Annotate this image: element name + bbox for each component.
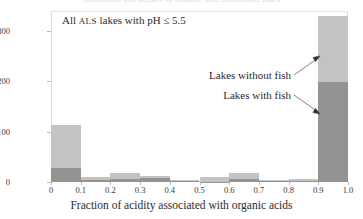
y-axis-tick-label: 200 bbox=[0, 76, 10, 86]
x-axis-tick-mark bbox=[289, 182, 290, 185]
bar-segment-with-fish bbox=[51, 168, 81, 182]
x-axis-tick-label: 0.3 bbox=[135, 185, 146, 195]
x-axis-tick-label: 0.6 bbox=[224, 185, 235, 195]
x-axis-tick-label: 0 bbox=[49, 185, 53, 195]
x-axis-tick-label: 0.2 bbox=[105, 185, 116, 195]
x-axis-tick-mark bbox=[170, 182, 171, 185]
histogram-bin bbox=[259, 180, 289, 183]
bar-segment-without-fish bbox=[81, 177, 111, 180]
histogram-bin bbox=[318, 16, 348, 182]
bar-segment-with-fish bbox=[170, 181, 200, 182]
x-axis-tick-mark bbox=[51, 182, 52, 185]
y-axis-tick-mark bbox=[47, 81, 51, 82]
x-axis-tick-mark bbox=[110, 182, 111, 185]
x-axis-tick-mark bbox=[318, 182, 319, 185]
bar-segment-without-fish bbox=[140, 176, 170, 178]
histogram-bin bbox=[140, 176, 170, 182]
y-axis-tick-mark bbox=[47, 132, 51, 133]
x-axis-tick-mark bbox=[81, 182, 82, 185]
x-axis-tick-label: 1.0 bbox=[343, 185, 354, 195]
bar-segment-with-fish bbox=[110, 179, 140, 182]
x-axis-tick-label: 0.8 bbox=[283, 185, 294, 195]
x-axis-tick-mark bbox=[229, 182, 230, 185]
annotation-prefix: All bbox=[62, 14, 79, 26]
figure-container: Aluminum and acidity in organic-acid dom… bbox=[0, 0, 363, 219]
y-axis-tick-label: 100 bbox=[0, 127, 10, 137]
histogram-bin bbox=[81, 177, 111, 182]
histogram-bin bbox=[289, 178, 319, 182]
y-axis-tick-label: 300 bbox=[0, 26, 10, 36]
cut-off-figure-title: Aluminum and acidity in organic-acid dom… bbox=[0, 0, 363, 2]
bar-segment-without-fish bbox=[318, 16, 348, 82]
x-axis-tick-label: 0.9 bbox=[313, 185, 324, 195]
callout-lakes-without-fish: Lakes without fish bbox=[178, 69, 291, 81]
y-axis-tick-label: 0 bbox=[6, 177, 10, 187]
histogram-bin bbox=[229, 173, 259, 182]
bar-segment-with-fish bbox=[289, 181, 319, 182]
x-axis-tick-mark bbox=[140, 182, 141, 185]
bar-segment-with-fish bbox=[140, 178, 170, 182]
bar-segment-without-fish bbox=[110, 173, 140, 179]
bar-segment-without-fish bbox=[289, 179, 319, 182]
x-axis-label: Fraction of acidity associated with orga… bbox=[0, 199, 363, 211]
x-axis-tick-mark bbox=[348, 182, 349, 185]
x-axis-tick-label: 0.5 bbox=[194, 185, 205, 195]
bar-segment-without-fish bbox=[259, 180, 289, 182]
annotation-smallcaps: ALS bbox=[79, 16, 97, 26]
histogram-bin bbox=[51, 125, 81, 182]
x-axis-tick-label: 0.7 bbox=[254, 185, 265, 195]
callout-lakes-with-fish: Lakes with fish bbox=[178, 89, 291, 101]
histogram-bin bbox=[170, 180, 200, 182]
bar-segment-without-fish bbox=[170, 180, 200, 181]
x-axis-tick-mark bbox=[200, 182, 201, 185]
bar-segment-without-fish bbox=[200, 177, 230, 181]
histogram-bin bbox=[110, 173, 140, 182]
bar-segment-without-fish bbox=[229, 173, 259, 179]
bar-segment-without-fish bbox=[51, 125, 81, 168]
bar-segment-with-fish bbox=[81, 180, 111, 182]
histogram-bin bbox=[200, 177, 230, 182]
bar-segment-with-fish bbox=[229, 179, 259, 182]
bar-segment-with-fish bbox=[318, 82, 348, 182]
bar-segment-with-fish bbox=[200, 182, 230, 183]
y-axis-tick-mark bbox=[47, 31, 51, 32]
x-axis-tick-label: 0.4 bbox=[164, 185, 175, 195]
x-axis-tick-label: 0.1 bbox=[75, 185, 86, 195]
plot-annotation-text: All ALS lakes with pH ≤ 5.5 bbox=[62, 14, 186, 26]
annotation-suffix: lakes with pH ≤ 5.5 bbox=[97, 14, 186, 26]
x-axis-tick-mark bbox=[259, 182, 260, 185]
bar-segment-with-fish bbox=[259, 181, 289, 182]
